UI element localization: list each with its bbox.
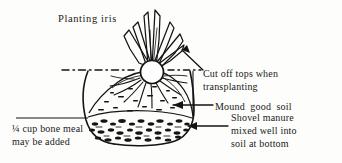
annotation-cut-off-tops-line2: transplanting (203, 81, 278, 94)
iris-leaf-fan (124, 10, 184, 68)
figure-title: Planting iris (58, 12, 117, 25)
annotation-shovel-manure: Shovel manuremixed well intosoil at bott… (231, 112, 297, 150)
mounded-soil-stipple (89, 71, 193, 116)
annotation-shovel-manure-line1: Shovel manure (231, 112, 297, 125)
arrow-to-manure-layer (188, 122, 228, 130)
annotation-bone-meal-line2: may be added (12, 136, 83, 149)
iris-rhizome (141, 61, 164, 84)
manure-gravel-layer (88, 111, 192, 142)
annotation-bone-meal-line1: ¼ cup bone meal (12, 123, 83, 136)
annotation-bone-meal: ¼ cup bone mealmay be added (12, 123, 83, 149)
annotation-cut-off-tops-line1: Cut off tops when (203, 68, 278, 81)
annotation-cut-off-tops: Cut off tops whentransplanting (203, 68, 278, 94)
figure-canvas: Planting iris Cut off tops whentransplan… (0, 0, 342, 163)
annotation-shovel-manure-line2: mixed well into (231, 125, 297, 138)
annotation-shovel-manure-line3: soil at bottom (231, 138, 297, 151)
arrow-to-leaf-tops (182, 45, 203, 70)
